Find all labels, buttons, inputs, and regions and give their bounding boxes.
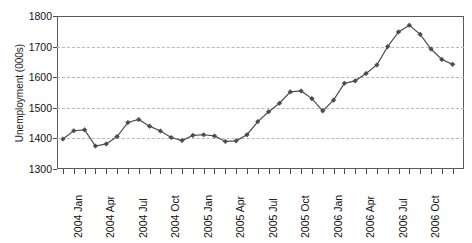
data-point-marker	[223, 139, 228, 144]
x-axis-tick-label: 2006 Jul	[397, 176, 409, 238]
plot-area	[57, 16, 464, 169]
x-axis-tick	[344, 169, 345, 174]
x-axis-tick	[366, 169, 367, 174]
x-axis-tick	[453, 169, 454, 174]
y-axis-tick-labels: 130014001500160017001800	[8, 16, 52, 169]
y-axis-tick-label: 1700	[12, 42, 52, 52]
x-axis-tick	[431, 169, 432, 174]
x-axis-tick	[258, 169, 259, 174]
x-axis-tick	[193, 169, 194, 174]
x-axis-tick	[63, 169, 64, 174]
x-axis-tick	[269, 169, 270, 174]
series-unemployment	[57, 16, 464, 169]
y-axis-tick-label: 1800	[12, 11, 52, 21]
x-axis-tick	[399, 169, 400, 174]
x-axis-tick	[74, 169, 75, 174]
x-axis-tick	[334, 169, 335, 174]
x-axis-tick	[95, 169, 96, 174]
x-axis-tick	[247, 169, 248, 174]
x-axis-tick-label: 2006 Jan	[332, 176, 344, 238]
x-axis-tick	[290, 169, 291, 174]
data-point-marker	[212, 134, 217, 139]
x-axis-tick	[85, 169, 86, 174]
unemployment-line-chart: Unemployment (000s) 13001400150016001700…	[0, 0, 472, 243]
x-axis-tick-label: 2004 Jul	[137, 176, 149, 238]
x-axis-tick-label: 2005 Oct	[299, 176, 311, 238]
x-axis-tick	[225, 169, 226, 174]
x-axis-tick-label: 2004 Apr	[104, 176, 116, 238]
x-axis-tick	[377, 169, 378, 174]
series-line	[63, 25, 453, 146]
x-axis-tick	[150, 169, 151, 174]
x-axis-tick	[442, 169, 443, 174]
x-axis-tick	[171, 169, 172, 174]
x-axis-tick	[355, 169, 356, 174]
x-axis-tick	[236, 169, 237, 174]
data-point-marker	[191, 133, 196, 138]
data-point-marker	[180, 138, 185, 143]
x-axis-tick-label: 2006 Oct	[429, 176, 441, 238]
x-axis-tick	[160, 169, 161, 174]
x-axis-tick	[139, 169, 140, 174]
x-axis-tick	[323, 169, 324, 174]
y-axis-tick-label: 1300	[12, 164, 52, 174]
x-axis-tick-label: 2005 Jan	[202, 176, 214, 238]
data-point-marker	[201, 132, 206, 137]
x-axis-tick-label: 2004 Oct	[169, 176, 181, 238]
x-axis-tick	[214, 169, 215, 174]
y-axis-tick-label: 1600	[12, 72, 52, 82]
x-axis-tick-label: 2006 Apr	[364, 176, 376, 238]
x-axis-tick	[312, 169, 313, 174]
x-axis-tick-labels: 2004 Jan2004 Apr2004 Jul2004 Oct2005 Jan…	[57, 176, 464, 242]
y-axis-tick-label: 1400	[12, 133, 52, 143]
x-axis-tick-label: 2005 Apr	[234, 176, 246, 238]
x-axis-tick	[117, 169, 118, 174]
x-axis-tick	[420, 169, 421, 174]
data-point-marker	[450, 62, 455, 67]
y-axis-tick	[53, 169, 57, 170]
x-axis-tick	[388, 169, 389, 174]
data-point-marker	[234, 139, 239, 144]
x-axis-tick	[128, 169, 129, 174]
x-axis-tick	[106, 169, 107, 174]
x-axis-tick	[301, 169, 302, 174]
x-axis-tick	[409, 169, 410, 174]
x-axis-tick-label: 2004 Jan	[72, 176, 84, 238]
x-axis-tick	[182, 169, 183, 174]
y-axis-tick-label: 1500	[12, 103, 52, 113]
x-axis-tick	[279, 169, 280, 174]
x-axis-tick-label: 2005 Jul	[267, 176, 279, 238]
x-axis-tick	[204, 169, 205, 174]
